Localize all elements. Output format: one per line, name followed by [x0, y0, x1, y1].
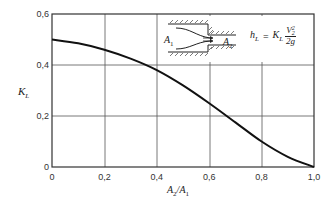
y-axis-title: KL	[18, 85, 29, 100]
formula-k: KL	[273, 29, 284, 43]
outlet-label-sub: 2	[229, 42, 233, 50]
y-tick-labels: 00,20,40,6	[36, 9, 49, 172]
x-tick-label: 0,6	[203, 172, 216, 182]
y-tick-label: 0,2	[36, 111, 49, 121]
inlet-label-sub: 1	[170, 40, 174, 48]
formula-lhs: hL	[250, 29, 259, 43]
y-tick-label: 0,6	[36, 9, 49, 19]
outlet-area-label: A2	[223, 36, 233, 50]
x-tick-label: 0	[49, 172, 54, 182]
x-tick-label: 0,8	[255, 172, 268, 182]
head-loss-formula: hL = KL V22 2g	[250, 26, 296, 46]
formula-equals: =	[263, 31, 269, 42]
formula-fraction: V22 2g	[285, 26, 296, 46]
inlet-area-label: A1	[164, 34, 174, 48]
x-tick-label: 1,0	[308, 172, 321, 182]
y-tick-label: 0	[44, 162, 49, 172]
x-tick-labels: 00,20,40,60,81,0	[49, 172, 320, 182]
x-axis-title: A2/A1	[167, 184, 189, 198]
y-tick-label: 0,4	[36, 60, 49, 70]
x-tick-label: 0,2	[98, 172, 111, 182]
x-tick-label: 0,4	[151, 172, 164, 182]
